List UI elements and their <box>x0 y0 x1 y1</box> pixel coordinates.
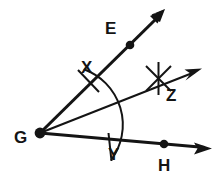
ray-gh-group <box>40 133 212 155</box>
label-z: Z <box>166 86 176 105</box>
ray-gh-arrowhead <box>194 143 212 155</box>
label-h: H <box>158 156 170 175</box>
label-x: X <box>81 58 93 77</box>
geometry-canvas: G E H X Y Z <box>0 0 224 184</box>
ray-ge-group <box>40 9 165 133</box>
label-y: Y <box>108 145 120 164</box>
ray-ge-line <box>40 18 158 134</box>
point-dot-e <box>126 41 135 50</box>
geometry-diagram: G E H X Y Z <box>0 0 224 184</box>
point-dot-h <box>160 140 169 149</box>
ray-gz-group <box>40 69 202 134</box>
label-g: G <box>14 128 27 147</box>
label-e: E <box>105 19 116 38</box>
vertex-dot-g <box>35 128 46 139</box>
